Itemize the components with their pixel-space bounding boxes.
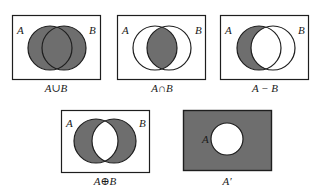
caption-intersection: A∩B [150, 82, 173, 94]
set-a-label: A [224, 24, 232, 36]
set-a-label: A [201, 133, 209, 145]
set-a-label: A [121, 24, 129, 36]
venn-difference: A B A − B [221, 16, 309, 95]
caption-complement: A′ [221, 175, 232, 187]
venn-symmetric-difference: A B A⊕B [62, 111, 150, 188]
caption-symmetric-difference: A⊕B [93, 175, 117, 187]
set-b-label: B [298, 24, 305, 36]
set-a-label: A [16, 24, 24, 36]
set-b-label: B [89, 24, 96, 36]
set-b-label: B [195, 24, 202, 36]
venn-intersection: A B A∩B [118, 16, 206, 95]
caption-union: A∪B [44, 82, 68, 94]
set-b-label: B [139, 117, 146, 129]
caption-difference: A − B [251, 82, 278, 94]
venn-diagrams-figure: A B A∪B A B A∩B A B A − B A B A⊕B [0, 0, 320, 193]
set-a-circle [211, 123, 243, 155]
venn-complement: A A′ [184, 111, 272, 188]
venn-union: A B A∪B [13, 16, 101, 95]
set-a-label: A [65, 117, 73, 129]
